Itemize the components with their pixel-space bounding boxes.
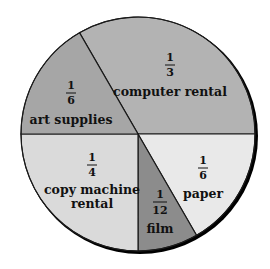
pie-chart: 1 3 computer rental 1 6 art supplies 1 4… (0, 0, 270, 269)
svg-text:4: 4 (88, 166, 96, 179)
svg-text:3: 3 (166, 66, 174, 79)
svg-text:1: 1 (166, 51, 174, 64)
svg-text:6: 6 (67, 94, 75, 107)
svg-text:film: film (146, 221, 173, 236)
svg-text:1: 1 (156, 188, 164, 201)
pie-slices (21, 17, 255, 251)
svg-text:6: 6 (199, 169, 207, 182)
svg-text:paper: paper (183, 186, 224, 201)
svg-text:12: 12 (152, 204, 167, 217)
svg-text:1: 1 (199, 154, 207, 167)
svg-text:1: 1 (67, 79, 75, 92)
svg-text:copy machine: copy machine (44, 182, 140, 197)
svg-text:computer rental: computer rental (113, 84, 227, 99)
svg-text:1: 1 (88, 151, 96, 164)
svg-text:rental: rental (71, 196, 114, 211)
svg-text:art supplies: art supplies (30, 112, 113, 127)
